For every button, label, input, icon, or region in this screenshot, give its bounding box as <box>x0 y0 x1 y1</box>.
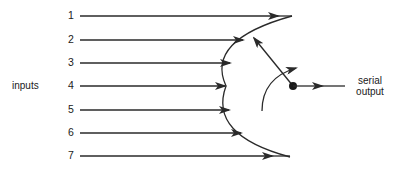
input-number-5: 5 <box>66 104 76 115</box>
input-number-1: 1 <box>66 10 76 21</box>
diagram-canvas <box>0 0 394 172</box>
output-label-line2: output <box>350 86 390 97</box>
input-number-2: 2 <box>66 34 76 45</box>
input-number-6: 6 <box>66 127 76 138</box>
input-number-7: 7 <box>66 150 76 161</box>
serial-output-label: serial output <box>350 75 390 97</box>
commutator-arc <box>222 16 292 157</box>
rotor-arm <box>254 38 293 86</box>
inputs-label: inputs <box>12 80 39 91</box>
output-label-line1: serial <box>350 75 390 86</box>
rotation-arrow-icon <box>262 68 296 111</box>
input-lines <box>80 16 292 156</box>
input-number-3: 3 <box>66 57 76 68</box>
input-number-4: 4 <box>66 80 76 91</box>
